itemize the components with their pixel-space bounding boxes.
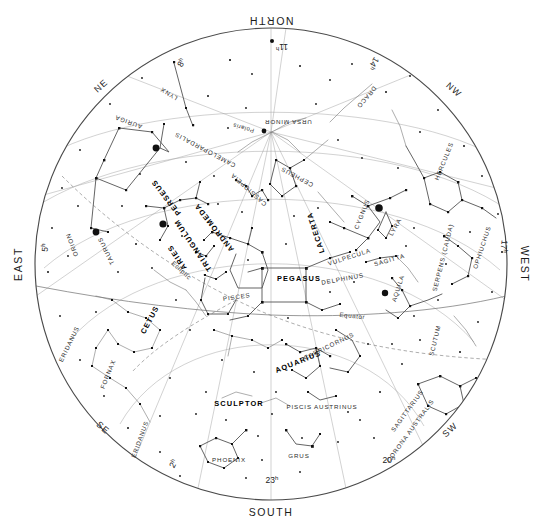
constellation-label-cygnus: CYGNUS [353, 198, 371, 230]
hour-marker-14h: 14h [366, 56, 381, 72]
hour-marker-11h: 11h [276, 42, 288, 52]
intercardinal-ne: NE [92, 77, 110, 94]
constellation-label-eridanus-1: ERIDANUS [57, 325, 80, 363]
constellation-label-piscis-austrinus: PISCIS AUSTRINUS [286, 403, 357, 410]
constellation-label-ursa-minor: URSA MINOR [264, 119, 312, 126]
constellation-label-delphinus: DELPHINUS [321, 271, 365, 285]
constellation-label-taurus: TAURUS [96, 236, 115, 266]
hour-marker-8h: 8h [175, 57, 188, 69]
star-label-polaris: Polaris [232, 122, 255, 134]
hour-marker-5h: 5h [40, 243, 51, 252]
constellation-label-fornax: FORNAX [99, 358, 117, 389]
constellation-label-phoenix: PHOENIX [212, 456, 246, 463]
intercardinal-se: SE [94, 419, 111, 436]
constellation-label-ophiuchus: OPHIUCHUS [471, 225, 491, 270]
constellation-label-scutum: SCUTUM [427, 324, 441, 356]
constellation-label-serpens-cauda: SERPENS (CAUDA) [431, 223, 455, 292]
hour-marker-23h: 23h [266, 475, 279, 485]
constellation-label-sculptor: SCULPTOR [214, 399, 264, 408]
constellation-label-draco: DRACO [356, 85, 378, 110]
star-chart: NORTH SOUTH EAST WEST NE NW SE SW 2h 5h … [0, 0, 542, 528]
constellation-label-eridanus-2: ERIDANUS [130, 420, 150, 459]
cardinal-east: EAST [12, 247, 24, 281]
constellation-label-perseus: PERSEUS [149, 178, 183, 218]
named-star-labels: Polaris [232, 122, 255, 134]
cardinal-south: SOUTH [249, 506, 294, 518]
hour-marker-2h: 2h [167, 458, 180, 470]
intercardinal-sw: SW [440, 420, 459, 439]
cardinal-north: NORTH [248, 15, 293, 27]
constellation-label-aquarius: AQUARIUS [274, 348, 322, 375]
constellation-label-cetus: CETUS [139, 304, 161, 335]
cardinal-west: WEST [519, 246, 531, 283]
ecliptic-line-lower [132, 300, 236, 372]
hour-marker-17h: 17h [498, 239, 509, 253]
constellation-labels: URSA MINOR DRACO CEPHEUS CASSIOPEIA CAME… [57, 85, 492, 463]
intercardinal-nw: NW [444, 80, 464, 99]
sky-map-canvas: NORTH SOUTH EAST WEST NE NW SE SW 2h 5h … [0, 0, 542, 528]
constellation-label-pegasus: PEGASUS [277, 274, 321, 283]
constellation-label-lacerta: LACERTA [305, 211, 327, 254]
constellation-label-grus: GRUS [288, 452, 309, 459]
constellation-label-camelopardalis: CAMELOPARDALIS [173, 131, 236, 169]
equator-label: Equator [339, 311, 366, 322]
constellation-label-auriga: AURIGA [113, 114, 143, 130]
constellation-label-sagitta: SAGITTA [373, 252, 406, 268]
constellation-label-lynx: LYNX [159, 86, 179, 102]
